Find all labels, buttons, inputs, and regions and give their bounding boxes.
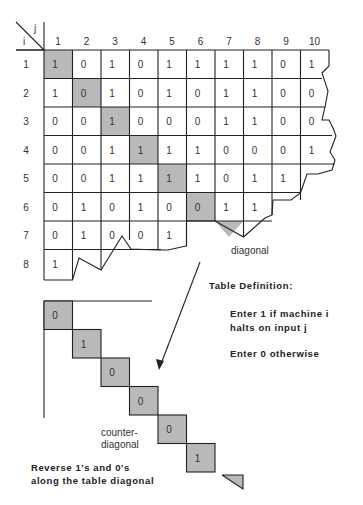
svg-text:1: 1 <box>252 116 258 127</box>
svg-text:0: 0 <box>195 202 201 213</box>
svg-text:0: 0 <box>195 116 201 127</box>
svg-text:1: 1 <box>52 59 58 70</box>
svg-text:2: 2 <box>23 88 29 99</box>
svg-text:1: 1 <box>166 230 172 241</box>
svg-text:1: 1 <box>81 339 87 350</box>
svg-text:4: 4 <box>23 145 29 156</box>
svg-text:1: 1 <box>166 88 172 99</box>
definition-title: Table Definition: <box>209 280 293 291</box>
svg-text:1: 1 <box>109 173 115 184</box>
svg-text:1: 1 <box>252 59 258 70</box>
svg-text:0: 0 <box>81 59 87 70</box>
svg-text:0: 0 <box>195 88 201 99</box>
svg-text:1: 1 <box>109 116 115 127</box>
definition-line-2: Enter 0 otherwise <box>230 348 319 359</box>
svg-text:1: 1 <box>223 88 229 99</box>
svg-text:5: 5 <box>169 36 175 47</box>
caption-line-2: along the table diagonal <box>31 475 154 486</box>
svg-text:1: 1 <box>166 59 172 70</box>
svg-text:8: 8 <box>23 259 29 270</box>
svg-text:6: 6 <box>23 202 29 213</box>
svg-text:1: 1 <box>166 173 172 184</box>
svg-text:0: 0 <box>223 145 229 156</box>
svg-text:0: 0 <box>138 116 144 127</box>
svg-text:0: 0 <box>81 88 87 99</box>
svg-text:0: 0 <box>109 367 115 378</box>
svg-text:0: 0 <box>138 59 144 70</box>
svg-text:0: 0 <box>138 88 144 99</box>
svg-text:9: 9 <box>283 36 289 47</box>
svg-text:1: 1 <box>195 145 201 156</box>
svg-text:3: 3 <box>23 116 29 127</box>
counter-diagonal-label-1: counter- <box>101 427 138 438</box>
svg-text:1: 1 <box>52 259 58 270</box>
svg-text:0: 0 <box>81 173 87 184</box>
svg-text:1: 1 <box>138 202 144 213</box>
svg-text:0: 0 <box>52 230 58 241</box>
col-axis-label: j <box>33 23 36 34</box>
svg-text:8: 8 <box>255 36 261 47</box>
caption-line-1: Reverse 1's and 0's <box>31 462 130 473</box>
svg-text:0: 0 <box>52 310 58 321</box>
diagonal-label: diagonal <box>231 245 269 256</box>
svg-text:1: 1 <box>138 173 144 184</box>
svg-text:1: 1 <box>166 145 172 156</box>
svg-text:1: 1 <box>195 59 201 70</box>
svg-text:0: 0 <box>166 424 172 435</box>
svg-text:5: 5 <box>23 173 29 184</box>
svg-text:0: 0 <box>280 88 286 99</box>
svg-text:1: 1 <box>252 88 258 99</box>
svg-text:1: 1 <box>52 88 58 99</box>
svg-text:0: 0 <box>280 59 286 70</box>
counter-diagonal-label-2: diagonal <box>101 439 139 450</box>
svg-text:0: 0 <box>223 173 229 184</box>
svg-text:4: 4 <box>141 36 147 47</box>
definition-line-1b: halts on input j <box>230 322 307 333</box>
svg-text:0: 0 <box>280 116 286 127</box>
svg-text:0: 0 <box>166 116 172 127</box>
svg-text:1: 1 <box>223 59 229 70</box>
svg-text:1: 1 <box>195 453 201 464</box>
svg-text:0: 0 <box>109 230 115 241</box>
arrow-icon <box>156 262 200 370</box>
column-headers: 1 2 3 4 5 6 7 8 9 10 <box>55 36 320 47</box>
caption: Reverse 1's and 0's along the table diag… <box>31 462 154 486</box>
svg-text:1: 1 <box>280 173 286 184</box>
svg-text:2: 2 <box>84 36 90 47</box>
row-axis-label: i <box>23 36 25 47</box>
svg-text:1: 1 <box>138 145 144 156</box>
svg-text:1: 1 <box>252 202 258 213</box>
svg-text:6: 6 <box>198 36 204 47</box>
svg-text:1: 1 <box>81 230 87 241</box>
svg-text:1: 1 <box>109 59 115 70</box>
svg-text:0: 0 <box>52 202 58 213</box>
table-definition: Table Definition: Enter 1 if machine i h… <box>209 280 329 359</box>
svg-text:1: 1 <box>309 59 315 70</box>
svg-text:0: 0 <box>166 202 172 213</box>
svg-text:1: 1 <box>81 202 87 213</box>
svg-text:0: 0 <box>52 145 58 156</box>
svg-text:1: 1 <box>195 173 201 184</box>
svg-text:0: 0 <box>81 116 87 127</box>
svg-text:0: 0 <box>109 202 115 213</box>
svg-text:3: 3 <box>112 36 118 47</box>
svg-text:7: 7 <box>226 36 232 47</box>
svg-text:0: 0 <box>138 396 144 407</box>
svg-text:0: 0 <box>81 145 87 156</box>
counter-diagonal: 0 1 0 0 0 1 counter- diagonal <box>44 301 243 489</box>
svg-text:10: 10 <box>309 36 321 47</box>
svg-text:1: 1 <box>223 202 229 213</box>
svg-text:1: 1 <box>109 145 115 156</box>
table-header-corner: j i <box>16 22 44 50</box>
svg-text:0: 0 <box>280 145 286 156</box>
svg-text:0: 0 <box>309 88 315 99</box>
svg-text:0: 0 <box>252 145 258 156</box>
svg-text:0: 0 <box>138 230 144 241</box>
svg-text:1: 1 <box>55 36 61 47</box>
svg-text:0: 0 <box>52 173 58 184</box>
svg-text:1: 1 <box>309 145 315 156</box>
svg-text:1: 1 <box>23 59 29 70</box>
svg-text:7: 7 <box>23 230 29 241</box>
svg-text:1: 1 <box>109 88 115 99</box>
svg-text:1: 1 <box>252 173 258 184</box>
